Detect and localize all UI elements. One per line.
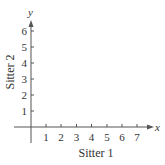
y-tick-label: 2 [22,89,28,101]
x-tick-label: 5 [104,131,110,143]
x-tick-label: 2 [58,131,64,143]
y-tick-labels: 1 2 3 4 5 6 [22,25,28,117]
y-axis-variable: y [27,6,33,18]
x-axis-arrow-icon [147,125,154,130]
y-tick-label: 6 [22,25,28,37]
y-axis-label: Sitter 2 [3,55,17,90]
x-tick-label: 1 [43,131,49,143]
x-tick-label: 7 [134,131,140,143]
y-tick-label: 1 [22,105,28,117]
x-tick-labels: 1 2 3 4 5 6 7 [43,131,140,143]
x-axis-variable: x [154,121,160,133]
x-tick-label: 6 [119,131,125,143]
x-axis-label: Sitter 1 [79,146,114,160]
x-tick-label: 4 [89,131,95,143]
x-tick-label: 3 [74,131,80,143]
chart-canvas: 1 2 3 4 5 6 7 1 2 3 4 5 6 y x Sitter 1 S… [0,0,165,165]
y-tick-label: 5 [22,41,28,53]
y-tick-label: 3 [22,73,28,85]
y-axis-arrow-icon [29,20,34,27]
y-tick-label: 4 [22,57,28,69]
